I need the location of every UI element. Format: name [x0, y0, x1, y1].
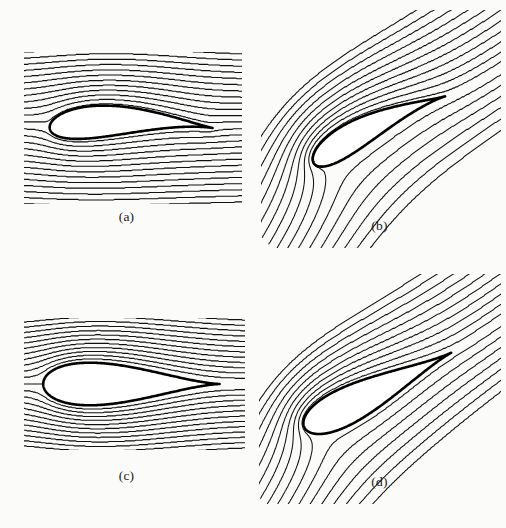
- panel-label-b: (b): [253, 218, 506, 234]
- panel-label-c: (c): [0, 468, 253, 484]
- panel-a: (a): [0, 0, 253, 264]
- figure-grid: (a) (b) (c) (d): [0, 0, 506, 528]
- panel-label-a: (a): [0, 209, 253, 225]
- panel-c: (c): [0, 264, 253, 528]
- panel-d: (d): [253, 264, 506, 528]
- panel-label-d: (d): [253, 474, 506, 490]
- panel-b: (b): [253, 0, 506, 264]
- streamline-plot-c: [0, 264, 253, 528]
